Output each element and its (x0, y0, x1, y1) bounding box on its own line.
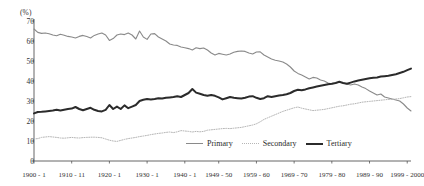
x-tick-label: 1949 - 50 (205, 171, 232, 179)
x-tick-label: 1920 - 1 (98, 171, 121, 179)
legend-swatch-secondary-icon (242, 143, 259, 144)
y-tick-label: 70 (27, 17, 35, 26)
y-tick-label: 30 (27, 97, 35, 106)
x-tick-label: 1900 - 1 (22, 171, 45, 179)
legend-item-secondary: Secondary (242, 139, 297, 148)
legend-label-tertiary: Tertiary (327, 139, 352, 148)
series-line-tertiary (34, 69, 411, 114)
x-tick-label: 1940 - 1 (173, 171, 196, 179)
series-line-secondary (34, 97, 411, 142)
legend-label-primary: Primary (207, 139, 233, 148)
x-tick-label: 1930 - 1 (135, 171, 158, 179)
x-tick-label: 1959 - 60 (243, 171, 270, 179)
legend-swatch-tertiary-icon (306, 143, 323, 145)
legend-swatch-primary-icon (186, 143, 203, 144)
y-tick-label: 0 (30, 157, 34, 166)
y-tick-label: 60 (27, 37, 35, 46)
x-tick-label: 1989 - 90 (356, 171, 383, 179)
x-tick-label: 1910 - 11 (58, 171, 85, 179)
legend-item-primary: Primary (186, 139, 233, 148)
x-tick-label: 1979 - 80 (318, 171, 345, 179)
legend-item-tertiary: Tertiary (306, 139, 352, 148)
chart-legend: Primary Secondary Tertiary (186, 139, 352, 148)
y-axis-tick-labels: 010203040506070 (0, 0, 34, 186)
y-tick-label: 10 (27, 137, 35, 146)
y-tick-label: 20 (27, 117, 35, 126)
x-tick-label: 1999 - 2000 (390, 171, 424, 179)
y-tick-label: 40 (27, 77, 35, 86)
legend-label-secondary: Secondary (263, 139, 297, 148)
y-tick-label: 50 (27, 57, 35, 66)
x-tick-label: 1969 - 70 (281, 171, 308, 179)
